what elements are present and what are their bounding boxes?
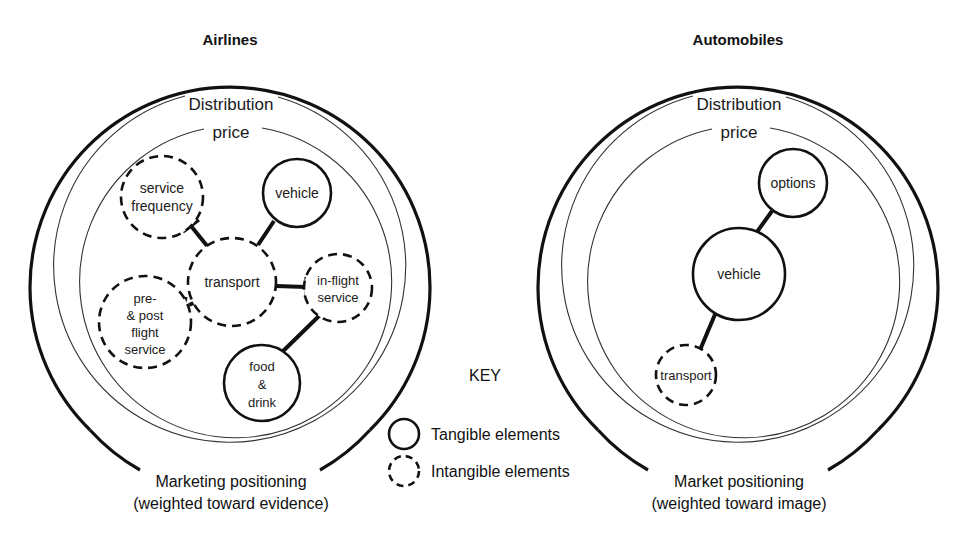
caption-airlines-line2: (weighted toward evidence) (133, 495, 329, 512)
panel-title-automobiles: Automobiles (693, 31, 784, 48)
node-label-transport-automobiles: transport (660, 368, 712, 383)
key-item-tangible: Tangible elements (389, 419, 560, 449)
node-label-service-frequency-line1: service (140, 180, 185, 196)
ring-label-distribution-airlines: Distribution (188, 95, 273, 114)
panel-automobiles: Automobiles Distribution price options v… (538, 31, 938, 512)
node-label-transport-airlines: transport (204, 274, 259, 290)
node-circle-in-flight-service[interactable] (304, 254, 372, 322)
caption-automobiles-line2: (weighted toward image) (651, 495, 826, 512)
ring-outer-airlines-right-tail (320, 430, 370, 470)
ring-label-price-automobiles: price (721, 123, 758, 142)
node-label-pre-post-line3: flight (131, 325, 159, 340)
ring-outer-automobiles-right-tail (828, 430, 878, 470)
node-transport-airlines[interactable]: transport (188, 238, 276, 326)
key-label-intangible: Intangible elements (431, 463, 570, 480)
node-vehicle-airlines[interactable]: vehicle (263, 159, 331, 227)
connector-transport-inflight (276, 286, 306, 287)
node-label-options: options (770, 175, 815, 191)
tangible-circle-icon (389, 419, 419, 449)
node-label-in-flight-service-line2: service (317, 290, 358, 305)
panel-airlines: Airlines Distribution price (30, 31, 430, 512)
node-in-flight-service[interactable]: in-flight service (304, 254, 372, 322)
caption-airlines-line1: Marketing positioning (155, 473, 306, 490)
ring-label-distribution-automobiles: Distribution (696, 95, 781, 114)
key-label-tangible: Tangible elements (431, 426, 560, 443)
node-label-food-drink-line1: food (249, 359, 274, 374)
caption-automobiles-line1: Market positioning (674, 473, 804, 490)
node-circle-service-frequency[interactable] (121, 156, 203, 238)
node-service-frequency[interactable]: service frequency (121, 156, 203, 238)
node-label-food-drink-line2: & (258, 377, 267, 392)
node-label-pre-post-line4: service (124, 342, 165, 357)
positioning-diagram-svg: Airlines Distribution price (0, 0, 966, 542)
connector-service-frequency-transport (191, 226, 208, 247)
intangible-circle-icon (389, 456, 419, 486)
node-transport-automobiles[interactable]: transport (656, 345, 716, 405)
node-label-vehicle-automobiles: vehicle (717, 266, 761, 282)
ring-label-price-airlines: price (213, 123, 250, 142)
node-label-pre-post-line1: pre- (133, 291, 156, 306)
connector-vehicle-transport-auto (700, 312, 716, 350)
key-legend: KEY Tangible elements Intangible element… (389, 367, 570, 486)
node-options[interactable]: options (759, 149, 827, 217)
node-label-pre-post-line2: & post (127, 308, 164, 323)
ring-outer-automobiles-left-tail (598, 430, 648, 470)
key-item-intangible: Intangible elements (389, 456, 570, 486)
key-title: KEY (469, 367, 501, 384)
connector-vehicle-transport (258, 221, 274, 245)
node-label-in-flight-service-line1: in-flight (317, 273, 359, 288)
diagram-canvas: Airlines Distribution price (0, 0, 966, 542)
node-label-service-frequency-line2: frequency (131, 198, 192, 214)
panel-title-airlines: Airlines (202, 31, 257, 48)
node-food-drink[interactable]: food & drink (224, 345, 300, 421)
node-pre-post-flight-service[interactable]: pre- & post flight service (99, 276, 191, 368)
node-label-food-drink-line3: drink (248, 395, 277, 410)
ring-outer-airlines-left-tail (90, 430, 140, 470)
node-vehicle-automobiles[interactable]: vehicle (693, 228, 785, 320)
node-label-vehicle-airlines: vehicle (275, 185, 319, 201)
